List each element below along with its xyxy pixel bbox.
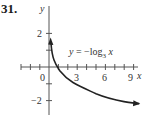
x-axis-label: x: [136, 70, 142, 81]
x-tick-label-9: 9: [128, 72, 133, 83]
y-tick-label-2: 2: [37, 28, 42, 39]
x-tick-label-0: 0: [40, 72, 45, 83]
y-tick-label-neg2: −2: [31, 95, 42, 106]
graph: y x 0 3 6 9 2 −2 y = −log3 x: [0, 0, 146, 125]
function-annotation: y = −log3 x: [68, 46, 114, 60]
x-tick-label-6: 6: [102, 72, 107, 83]
x-tick-label-3: 3: [74, 72, 79, 83]
y-axis-label: y: [39, 3, 45, 14]
